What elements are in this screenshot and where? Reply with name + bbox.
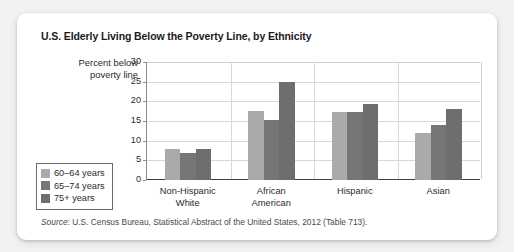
y-tick-mark bbox=[143, 180, 146, 181]
bar-group bbox=[415, 62, 462, 180]
legend-item: 65–74 years bbox=[41, 180, 105, 193]
legend-item: 60–64 years bbox=[41, 167, 105, 180]
legend-label-75-plus: 75+ years bbox=[54, 193, 95, 203]
legend-item: 75+ years bbox=[41, 192, 105, 205]
y-tick-label: 20 bbox=[115, 95, 141, 105]
bar bbox=[446, 109, 462, 180]
bar bbox=[347, 112, 363, 180]
bar bbox=[363, 104, 379, 180]
y-tick-label: 5 bbox=[115, 154, 141, 164]
chart-legend: 60–64 years 65–74 years 75+ years bbox=[36, 163, 113, 210]
y-tick-mark bbox=[143, 160, 146, 161]
legend-swatch-60-64 bbox=[41, 169, 50, 178]
bar bbox=[431, 125, 447, 180]
x-tick-label: Asian bbox=[397, 186, 481, 198]
x-tick-label-line: American bbox=[230, 198, 314, 210]
y-tick-mark bbox=[143, 82, 146, 83]
bar bbox=[279, 82, 295, 180]
y-tick-label: 0 bbox=[115, 174, 141, 184]
source-text: U.S. Census Bureau, Statistical Abstract… bbox=[72, 217, 367, 227]
x-tick-label-line: White bbox=[146, 198, 230, 210]
y-tick-mark bbox=[143, 101, 146, 102]
y-tick-mark bbox=[143, 121, 146, 122]
x-tick-label-line: African bbox=[230, 186, 314, 198]
chart-title: U.S. Elderly Living Below the Poverty Li… bbox=[41, 30, 311, 42]
bar-group bbox=[332, 62, 379, 180]
y-tick-label: 10 bbox=[115, 135, 141, 145]
bar bbox=[415, 133, 431, 180]
x-tick-label-line: Hispanic bbox=[313, 186, 397, 198]
y-tick-label: 25 bbox=[115, 76, 141, 86]
legend-label-60-64: 60–64 years bbox=[54, 168, 105, 178]
y-tick-label: 30 bbox=[115, 56, 141, 66]
bar-group bbox=[165, 62, 212, 180]
x-tick-label: Hispanic bbox=[313, 186, 397, 198]
source-label: Source bbox=[41, 217, 68, 227]
x-tick-label: AfricanAmerican bbox=[230, 186, 314, 209]
gridline-vertical bbox=[481, 62, 482, 179]
bar bbox=[248, 111, 264, 180]
y-tick-label: 15 bbox=[115, 115, 141, 125]
source-note: Source: U.S. Census Bureau, Statistical … bbox=[41, 217, 367, 227]
y-tick-mark bbox=[143, 141, 146, 142]
legend-swatch-75-plus bbox=[41, 194, 50, 203]
gridline-vertical bbox=[398, 62, 399, 179]
x-tick-label: Non-HispanicWhite bbox=[146, 186, 230, 209]
gridline-vertical bbox=[314, 62, 315, 179]
legend-swatch-65-74 bbox=[41, 181, 50, 190]
bar bbox=[196, 149, 212, 180]
x-tick-label-line: Non-Hispanic bbox=[146, 186, 230, 198]
legend-label-65-74: 65–74 years bbox=[54, 181, 105, 191]
bar bbox=[332, 112, 348, 180]
bar bbox=[165, 149, 181, 180]
gridline-vertical bbox=[231, 62, 232, 179]
bar bbox=[180, 153, 196, 180]
bar bbox=[264, 120, 280, 180]
figure-card: U.S. Elderly Living Below the Poverty Li… bbox=[17, 13, 497, 240]
bar-group bbox=[248, 62, 295, 180]
x-tick-label-line: Asian bbox=[397, 186, 481, 198]
plot-area bbox=[146, 62, 480, 180]
y-tick-mark bbox=[143, 62, 146, 63]
